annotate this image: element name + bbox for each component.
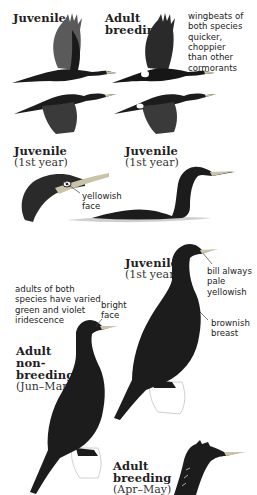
bright-face-leader-line <box>93 318 105 330</box>
adult-breeding-crested-head-illustration <box>160 440 257 495</box>
juvenile-head-label: Juvenile (1st year) <box>14 145 68 169</box>
juvenile-flying-downstroke-illustration <box>12 88 117 138</box>
juvenile-swimming-illustration <box>62 160 242 230</box>
label-subtitle: (1st year) <box>14 157 68 169</box>
adult-breeding-flying-upstroke-illustration <box>110 10 220 90</box>
juvenile-flying-upstroke-illustration <box>10 10 120 90</box>
adult-breeding-flying-downstroke-illustration <box>112 88 217 138</box>
